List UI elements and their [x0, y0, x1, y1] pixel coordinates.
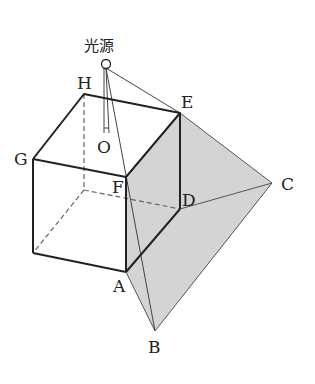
label-O: O	[97, 137, 111, 157]
label-D: D	[182, 190, 196, 210]
label-G: G	[14, 149, 28, 169]
light-source-label: 光源	[84, 37, 114, 55]
label-F: F	[112, 177, 124, 197]
label-C: C	[281, 174, 294, 194]
label-A: A	[112, 276, 126, 296]
light-source-icon	[102, 60, 111, 69]
label-H: H	[77, 73, 92, 93]
cube-shadow-diagram: 光源 H E G F D A C B O	[0, 0, 315, 384]
label-B: B	[148, 337, 161, 357]
label-E: E	[181, 92, 193, 112]
shadow-region	[126, 113, 272, 331]
